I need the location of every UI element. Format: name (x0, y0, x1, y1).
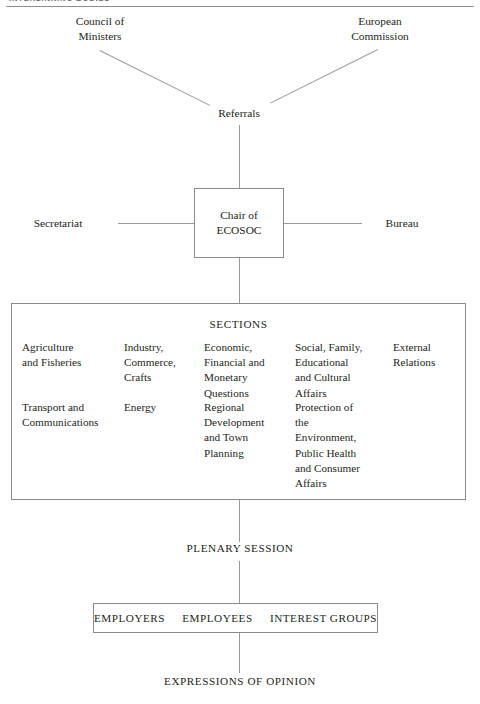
connector-council-to-referrals (100, 50, 211, 106)
section-social-family-educational-cultural: Social, Family, Educational and Cultural… (295, 340, 391, 401)
section-transport-and-communications: Transport and Communications (22, 400, 126, 430)
node-council-of-ministers: Council of Ministers (50, 14, 150, 44)
diagram-canvas: INTERLINKING BODIES Council of Ministers… (0, 0, 480, 704)
node-referrals: Referrals (189, 106, 289, 121)
section-protection-environment-public-health-consumer: Protection of the Environment, Public He… (295, 400, 391, 491)
sections-panel: SECTIONS Agriculture and Fisheries Indus… (11, 303, 466, 500)
groups-band: EMPLOYERS EMPLOYEES INTEREST GROUPS (93, 603, 378, 633)
sections-heading: SECTIONS (12, 318, 465, 330)
group-employers: EMPLOYERS (94, 612, 165, 624)
running-head-text: INTERLINKING BODIES (9, 0, 110, 3)
connector-groups-to-output (239, 633, 240, 673)
connector-chair-to-bureau (284, 223, 362, 224)
section-energy: Energy (124, 400, 206, 415)
section-regional-development-town-planning: Regional Development and Town Planning (204, 400, 298, 461)
connector-referrals-to-chair (239, 125, 240, 188)
header-rule (6, 6, 474, 7)
section-external-relations: External Relations (393, 340, 467, 370)
node-expressions-of-opinion: EXPRESSIONS OF OPINION (0, 675, 480, 687)
connector-commission-to-referrals (270, 49, 378, 103)
node-bureau: Bureau (362, 216, 442, 231)
node-european-commission: European Commission (328, 14, 432, 44)
node-secretariat: Secretariat (18, 216, 98, 231)
connector-secretariat-to-chair (118, 223, 194, 224)
node-plenary-session: PLENARY SESSION (0, 542, 480, 554)
running-head: INTERLINKING BODIES (0, 0, 480, 5)
section-economic-financial-monetary: Economic, Financial and Monetary Questio… (204, 340, 298, 401)
connector-chair-to-sections (239, 258, 240, 303)
section-agriculture-and-fisheries: Agriculture and Fisheries (22, 340, 120, 370)
node-chair-of-ecosoc: Chair of ECOSOC (194, 188, 284, 258)
section-industry-commerce-crafts: Industry, Commerce, Crafts (124, 340, 206, 386)
group-employees: EMPLOYEES (182, 612, 252, 624)
connector-sections-to-plenary (239, 500, 240, 542)
group-interest-groups: INTEREST GROUPS (270, 612, 377, 624)
connector-plenary-to-groups (239, 561, 240, 603)
